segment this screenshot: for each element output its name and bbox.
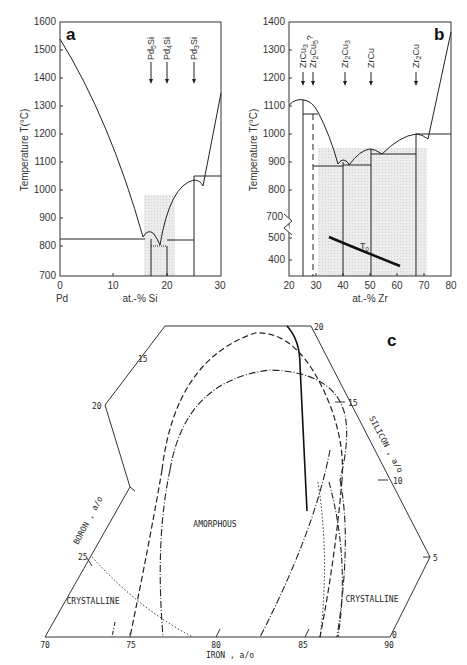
x-tick: 20 [161,280,173,291]
panel-label: b [434,25,444,44]
amorphous-label: AMORPHOUS [193,520,237,529]
iron-axis-label: IRON , a/o [206,651,254,660]
panel-c: c 70 75 80 85 90 IRON , a/o 15 20 25 BOR… [40,323,438,660]
compound-label: Zr2Cu5? [305,35,319,68]
ternary-outline [45,326,430,637]
x-tick: 40 [337,280,349,291]
x-tick: 30 [214,280,226,291]
x-axis-label: at.-% Si [122,293,157,304]
bottom-tick: 75 [126,641,136,650]
y-tick: 700 [39,270,56,281]
compound-markers: Pd5Si Pd4Si Pd3Si [146,37,200,84]
x-tick: 30 [310,280,322,291]
y-tick: 700 [266,211,283,222]
crystalline-label: CRYSTALLINE [67,597,120,606]
x-tick: 0 [57,280,63,291]
shaded-region [318,148,427,276]
compound-label: Pd3Si [189,37,200,60]
x-tick: 70 [418,280,430,291]
y-axis-ticks: 1400 1300 1200 1100 1000 900 800 700 500… [263,16,286,265]
bottom-tick: 90 [384,641,394,650]
right-tick: 5 [433,554,438,563]
x-tick: 20 [283,280,295,291]
y-tick: 1400 [34,72,57,83]
compound-label: ZrCu [366,48,376,68]
y-tick: 500 [268,232,285,243]
y-tick: 1400 [263,16,286,27]
axis-break [284,214,292,235]
compound-label: Zr2Cu [411,44,422,68]
y-tick: 1200 [34,128,57,139]
x-tick: 60 [391,280,403,291]
right-tick: 20 [314,323,324,332]
phase-lines [60,39,221,276]
y-tick: 900 [39,212,56,223]
y-axis-ticks: 1600 1500 1400 1300 1200 1100 1000 900 8… [34,16,57,281]
panel-label: a [66,25,76,44]
figure: 1600 1500 1400 1300 1200 1100 1000 900 8… [0,0,467,665]
panel-a: 1600 1500 1400 1300 1200 1100 1000 900 8… [19,16,226,304]
y-tick: 900 [268,156,285,167]
y-tick: 1300 [263,44,286,55]
compound-label: Zr2Cu3 [340,40,351,68]
y-tick: 1300 [34,100,57,111]
y-axis-label: Temperature T(°C) [19,109,30,192]
y-tick: 800 [268,184,285,195]
glass-forming-boundaries [92,326,347,637]
bottom-tick: 85 [298,641,308,650]
y-tick: 1100 [34,156,56,167]
compound-label: Pd4Si [162,37,173,60]
right-tick: 15 [348,399,358,408]
y-tick: 1600 [34,16,57,27]
panel-label: c [387,331,396,350]
shaded-region [144,195,175,276]
bottom-tick: 80 [211,641,221,650]
left-tick: 25 [78,553,88,562]
x-tick: 10 [107,280,119,291]
compound-label: Pd5Si [146,37,157,60]
x-tick: 80 [445,280,457,291]
bottom-tick: 70 [40,641,50,650]
x-origin-label: Pd [56,293,68,304]
x-tick: 50 [364,280,376,291]
crystalline-label: CRYSTALLINE [346,595,399,604]
y-tick: 1000 [263,128,286,139]
right-tick: 0 [392,631,397,640]
y-tick: 1200 [263,72,286,83]
x-axis-label: at.-% Zr [352,293,388,304]
panel-b: 1400 1300 1200 1100 1000 900 800 700 500… [248,16,457,304]
y-axis-label: Temperature T(°C) [248,109,259,192]
y-tick: 400 [268,254,285,265]
left-tick: 20 [92,402,102,411]
silicon-axis-label: SILICON , a/o [367,415,404,475]
boron-axis-label: BORON , a/o [72,495,105,546]
compound-markers: ZrCu3 Zr2Cu5? Zr2Cu3 ZrCu Zr2Cu [298,35,422,86]
left-tick: 15 [138,355,148,364]
y-tick: 800 [39,240,56,251]
y-tick: 1100 [263,100,285,111]
right-tick: 10 [393,477,403,486]
y-tick: 1500 [34,44,57,55]
y-tick: 1000 [34,184,57,195]
